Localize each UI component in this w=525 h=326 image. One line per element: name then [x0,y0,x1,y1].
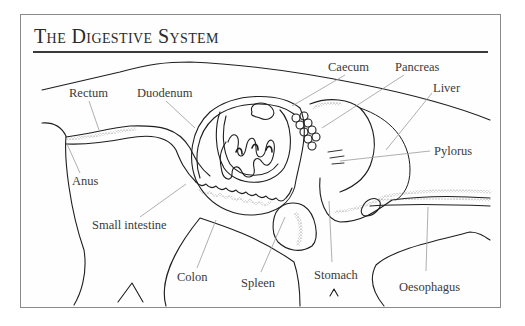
pancreas [292,112,320,150]
label-pancreas: Pancreas [395,60,439,74]
label-duodenum: Duodenum [137,86,193,100]
pylorus [328,150,344,164]
leader-oesophagus [426,207,428,271]
label-anus: Anus [72,174,98,188]
leader-small-intestine [140,184,186,217]
oesophagus [370,205,490,207]
digestive-system-diagram: The Digestive System [0,0,525,326]
body-outline-rear [42,123,85,305]
rectum [66,126,210,176]
leader-rectum [89,101,99,130]
leader-stomach [329,201,332,262]
leg-outline-right [372,232,490,306]
label-stomach: Stomach [314,268,358,282]
label-small-intestine: Small intestine [92,218,167,232]
label-pylorus: Pylorus [434,144,472,158]
label-liver: Liver [433,81,460,95]
stomach [320,178,490,222]
label-colon: Colon [177,270,208,284]
leg-outline-left [164,218,300,306]
label-rectum: Rectum [69,86,108,100]
leader-anus [67,144,80,173]
spleen [273,203,316,250]
leader-pancreas [322,75,404,128]
label-oesophagus: Oesophagus [399,280,460,294]
chevron-mark-right [330,289,338,296]
caecum [251,103,273,119]
label-spleen: Spleen [241,276,275,290]
leader-pylorus [340,151,430,161]
leader-duodenum [166,101,195,128]
leader-colon [197,220,216,268]
label-caecum: Caecum [328,60,369,74]
chevron-mark-left [118,283,143,302]
leader-liver [386,93,432,150]
